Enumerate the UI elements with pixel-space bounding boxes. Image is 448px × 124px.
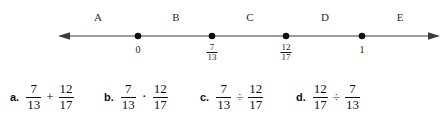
fraction-denominator: 17	[248, 97, 263, 112]
fraction-numerator: 7	[207, 43, 218, 52]
choice-expression-c: 7 13 ÷ 12 17	[216, 82, 263, 111]
choice-d-left-fraction: 12 17	[313, 82, 328, 111]
fraction-numerator: 7	[121, 82, 136, 96]
choice-c-right-fraction: 12 17	[248, 82, 263, 111]
fraction-denominator: 17	[153, 97, 168, 112]
right-arrowhead	[428, 32, 440, 40]
fraction-numerator: 12	[153, 82, 168, 96]
region-label-d: D	[321, 12, 329, 23]
fraction-numerator: 12	[313, 82, 328, 96]
fraction-numerator: 7	[345, 82, 360, 96]
tick-value-zero: 0	[136, 44, 141, 55]
fraction-denominator: 17	[281, 52, 292, 62]
fraction-numerator: 7	[26, 82, 41, 96]
fraction-twelve-seventeenths: 12 17	[281, 43, 292, 63]
region-label-b: B	[172, 12, 179, 23]
choice-letter-a: a.	[10, 91, 19, 103]
fraction-numerator: 7	[216, 82, 231, 96]
fraction-denominator: 13	[207, 52, 218, 62]
fraction-denominator: 13	[121, 97, 136, 112]
choice-expression-a: 7 13 + 12 17	[26, 82, 73, 111]
choice-b-left-fraction: 7 13	[121, 82, 136, 111]
left-arrowhead	[58, 32, 70, 40]
answer-choice-d[interactable]: d. 12 17 ÷ 7 13	[296, 76, 360, 118]
fraction-numerator: 12	[59, 82, 74, 96]
answer-choices: a. 7 13 + 12 17 b. 7 13 · 12 17	[0, 70, 448, 124]
fraction-numerator: 12	[281, 43, 292, 52]
tick-value-one: 1	[360, 44, 365, 55]
divide-icon: ÷	[236, 89, 243, 105]
choice-c-left-fraction: 7 13	[216, 82, 231, 111]
point-seven-thirteenths	[209, 33, 216, 40]
number-line-graphic	[0, 0, 448, 70]
region-label-c: C	[246, 12, 253, 23]
plus-icon: +	[46, 89, 53, 105]
fraction-denominator: 17	[59, 97, 74, 112]
region-label-e: E	[397, 12, 404, 23]
fraction-denominator: 13	[345, 97, 360, 112]
fraction-numerator: 12	[248, 82, 263, 96]
fraction-denominator: 13	[216, 97, 231, 112]
choice-letter-c: c.	[200, 91, 209, 103]
number-line-figure: A B C D E 0 7 13 12 17 1	[0, 0, 448, 70]
tick-label-one: 1	[360, 45, 365, 55]
answer-choice-a[interactable]: a. 7 13 + 12 17	[10, 76, 74, 118]
fraction-denominator: 13	[26, 97, 41, 112]
choice-letter-b: b.	[104, 91, 114, 103]
choice-expression-d: 12 17 ÷ 7 13	[313, 82, 360, 111]
tick-label-twelve-seventeenths: 12 17	[281, 43, 292, 63]
divide-icon: ÷	[333, 89, 340, 105]
tick-label-zero: 0	[136, 45, 141, 55]
choice-d-right-fraction: 7 13	[345, 82, 360, 111]
answer-choice-c[interactable]: c. 7 13 ÷ 12 17	[200, 76, 263, 118]
answer-choice-b[interactable]: b. 7 13 · 12 17	[104, 76, 168, 118]
choice-b-right-fraction: 12 17	[153, 82, 168, 111]
point-twelve-seventeenths	[283, 33, 290, 40]
choice-a-left-fraction: 7 13	[26, 82, 41, 111]
choice-expression-b: 7 13 · 12 17	[121, 82, 168, 111]
region-label-a: A	[94, 12, 102, 23]
choice-letter-d: d.	[296, 91, 306, 103]
fraction-seven-thirteenths: 7 13	[207, 43, 218, 63]
point-zero	[135, 33, 142, 40]
tick-label-seven-thirteenths: 7 13	[207, 43, 218, 63]
point-one	[359, 33, 366, 40]
multiply-dot-icon: ·	[142, 88, 147, 105]
fraction-denominator: 17	[313, 97, 328, 112]
choice-a-right-fraction: 12 17	[59, 82, 74, 111]
